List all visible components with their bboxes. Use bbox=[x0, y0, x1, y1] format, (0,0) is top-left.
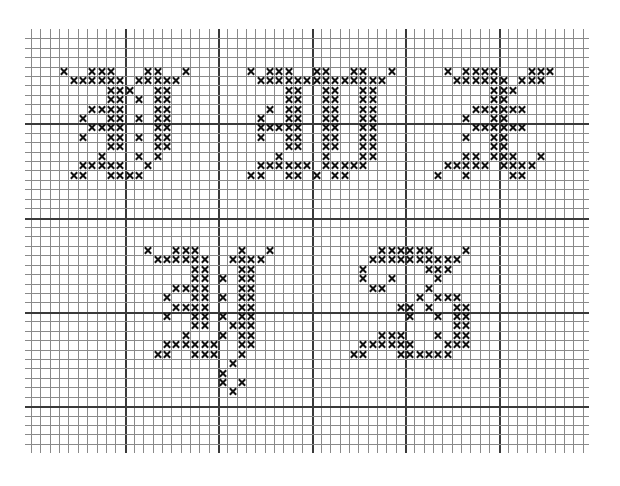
cross-stitch-mark bbox=[396, 350, 405, 359]
cross-stitch-mark bbox=[153, 95, 162, 104]
cross-stitch-mark bbox=[143, 161, 152, 170]
cross-stitch-mark bbox=[517, 161, 526, 170]
cross-stitch-mark bbox=[134, 114, 143, 123]
cross-stitch-mark bbox=[106, 142, 115, 151]
cross-stitch-mark bbox=[433, 274, 442, 283]
cross-stitch-mark bbox=[424, 255, 433, 264]
cross-stitch-mark bbox=[87, 105, 96, 114]
cross-stitch-mark bbox=[162, 86, 171, 95]
cross-stitch-mark bbox=[171, 255, 180, 264]
grid-horizontal-line bbox=[25, 265, 589, 266]
grid-vertical-line bbox=[246, 29, 247, 452]
cross-stitch-mark bbox=[415, 350, 424, 359]
grid-horizontal-line bbox=[25, 406, 589, 408]
cross-stitch-mark bbox=[106, 67, 115, 76]
cross-stitch-mark bbox=[143, 67, 152, 76]
cross-stitch-mark bbox=[517, 105, 526, 114]
cross-stitch-mark bbox=[284, 76, 293, 85]
cross-stitch-mark bbox=[228, 321, 237, 330]
grid-vertical-line bbox=[302, 29, 303, 452]
cross-stitch-mark bbox=[153, 105, 162, 114]
grid-horizontal-line bbox=[25, 227, 589, 228]
cross-stitch-mark bbox=[153, 114, 162, 123]
cross-stitch-mark bbox=[97, 105, 106, 114]
cross-stitch-mark bbox=[293, 86, 302, 95]
cross-stitch-mark bbox=[499, 161, 508, 170]
cross-stitch-mark bbox=[461, 133, 470, 142]
cross-stitch-mark bbox=[87, 76, 96, 85]
cross-stitch-mark bbox=[396, 331, 405, 340]
cross-stitch-mark bbox=[368, 86, 377, 95]
cross-stitch-mark bbox=[433, 171, 442, 180]
cross-stitch-mark bbox=[433, 265, 442, 274]
cross-stitch-mark bbox=[153, 76, 162, 85]
cross-stitch-mark bbox=[480, 76, 489, 85]
grid-horizontal-line bbox=[25, 189, 589, 190]
cross-stitch-mark bbox=[452, 293, 461, 302]
cross-stitch-mark bbox=[489, 67, 498, 76]
grid-horizontal-line bbox=[25, 416, 589, 417]
cross-stitch-mark bbox=[284, 133, 293, 142]
cross-stitch-mark bbox=[330, 105, 339, 114]
cross-stitch-mark bbox=[87, 67, 96, 76]
cross-stitch-mark bbox=[190, 321, 199, 330]
cross-stitch-mark bbox=[293, 76, 302, 85]
cross-stitch-mark bbox=[321, 161, 330, 170]
cross-stitch-mark bbox=[321, 123, 330, 132]
cross-stitch-mark bbox=[265, 246, 274, 255]
grid-horizontal-line bbox=[25, 397, 589, 398]
grid-horizontal-line bbox=[25, 236, 589, 237]
cross-stitch-mark bbox=[499, 114, 508, 123]
cross-stitch-mark bbox=[387, 255, 396, 264]
cross-stitch-mark bbox=[293, 123, 302, 132]
cross-stitch-mark bbox=[237, 293, 246, 302]
cross-stitch-mark bbox=[162, 95, 171, 104]
cross-stitch-mark bbox=[115, 171, 124, 180]
grid-vertical-line bbox=[396, 29, 397, 452]
cross-stitch-mark bbox=[358, 76, 367, 85]
cross-stitch-mark bbox=[302, 161, 311, 170]
cross-stitch-mark bbox=[284, 123, 293, 132]
cross-stitch-mark bbox=[200, 255, 209, 264]
cross-stitch-mark bbox=[162, 76, 171, 85]
cross-stitch-mark bbox=[461, 246, 470, 255]
cross-stitch-mark bbox=[134, 95, 143, 104]
cross-stitch-mark bbox=[368, 105, 377, 114]
cross-stitch-mark bbox=[415, 255, 424, 264]
cross-stitch-mark bbox=[284, 95, 293, 104]
cross-stitch-mark bbox=[387, 67, 396, 76]
cross-stitch-mark bbox=[340, 171, 349, 180]
cross-stitch-mark bbox=[237, 303, 246, 312]
cross-stitch-mark bbox=[321, 86, 330, 95]
cross-stitch-mark bbox=[190, 303, 199, 312]
grid-horizontal-line bbox=[25, 434, 589, 435]
cross-stitch-mark bbox=[143, 76, 152, 85]
grid-vertical-line bbox=[50, 29, 51, 452]
cross-stitch-mark bbox=[106, 171, 115, 180]
cross-stitch-mark bbox=[405, 350, 414, 359]
cross-stitch-mark bbox=[349, 67, 358, 76]
grid-vertical-line bbox=[31, 29, 32, 452]
cross-stitch-mark bbox=[190, 274, 199, 283]
cross-stitch-mark bbox=[396, 340, 405, 349]
grid-vertical-line bbox=[583, 29, 584, 452]
cross-stitch-mark bbox=[115, 95, 124, 104]
grid-horizontal-line bbox=[25, 425, 589, 426]
cross-stitch-mark bbox=[443, 265, 452, 274]
cross-stitch-mark bbox=[153, 123, 162, 132]
cross-stitch-mark bbox=[489, 95, 498, 104]
cross-stitch-mark bbox=[330, 123, 339, 132]
cross-stitch-mark bbox=[181, 255, 190, 264]
cross-stitch-mark bbox=[293, 133, 302, 142]
cross-stitch-mark bbox=[115, 133, 124, 142]
cross-stitch-mark bbox=[265, 123, 274, 132]
cross-stitch-mark bbox=[405, 312, 414, 321]
grid-horizontal-line bbox=[25, 246, 589, 247]
cross-stitch-mark bbox=[499, 76, 508, 85]
cross-stitch-mark bbox=[78, 133, 87, 142]
grid-vertical-line bbox=[87, 29, 88, 452]
grid-vertical-line bbox=[190, 29, 191, 452]
cross-stitch-mark bbox=[274, 67, 283, 76]
cross-stitch-mark bbox=[246, 303, 255, 312]
cross-stitch-mark bbox=[330, 171, 339, 180]
